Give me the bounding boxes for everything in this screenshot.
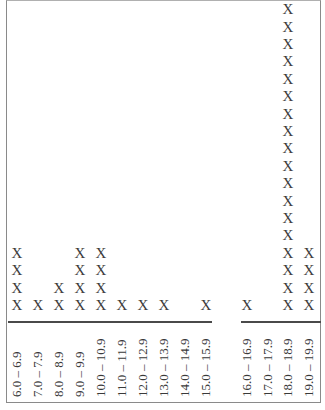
data-marker: X [278, 2, 298, 17]
data-marker: X [278, 246, 298, 261]
data-marker: X [49, 298, 69, 313]
data-marker: X [154, 298, 174, 313]
data-marker: X [278, 228, 298, 243]
x-tick-label: 14.0 – 14.9 [177, 339, 193, 398]
data-marker: X [91, 281, 111, 296]
data-marker: X [91, 298, 111, 313]
x-tick-label: 13.0 – 13.9 [156, 339, 172, 398]
data-marker: X [278, 176, 298, 191]
x-tick-label: 6.0 – 6.9 [9, 352, 25, 398]
data-marker: X [70, 298, 90, 313]
data-marker: X [7, 281, 27, 296]
x-tick-label: 12.0 – 12.9 [135, 339, 151, 398]
data-marker: X [278, 298, 298, 313]
x-tick-label: 17.0 – 17.9 [260, 339, 276, 398]
data-marker: X [278, 281, 298, 296]
data-marker: X [278, 54, 298, 69]
data-marker: X [112, 298, 132, 313]
data-marker: X [7, 263, 27, 278]
x-tick-label: 19.0 – 19.9 [301, 339, 317, 398]
data-marker: X [28, 298, 48, 313]
data-marker: X [278, 141, 298, 156]
x-tick-label: 8.0 – 8.9 [51, 352, 67, 398]
data-marker: X [49, 281, 69, 296]
data-marker: X [70, 263, 90, 278]
data-marker: X [70, 281, 90, 296]
data-marker: X [278, 159, 298, 174]
data-marker: X [299, 246, 319, 261]
x-axis-right-segment [241, 321, 321, 323]
data-marker: X [278, 194, 298, 209]
data-marker: X [70, 246, 90, 261]
data-marker: X [278, 89, 298, 104]
dot-plot: XXXX6.0 – 6.9X7.0 – 7.9XX8.0 – 8.9XXXX9.… [0, 0, 325, 410]
data-marker: X [278, 37, 298, 52]
x-tick-label: 7.0 – 7.9 [30, 352, 46, 398]
data-marker: X [299, 298, 319, 313]
data-marker: X [299, 263, 319, 278]
data-marker: X [133, 298, 153, 313]
data-marker: X [7, 246, 27, 261]
data-marker: X [278, 211, 298, 226]
x-tick-label: 9.0 – 9.9 [72, 352, 88, 398]
data-marker: X [91, 246, 111, 261]
data-marker: X [278, 20, 298, 35]
data-marker: X [196, 298, 216, 313]
data-marker: X [91, 263, 111, 278]
x-tick-label: 18.0 – 18.9 [280, 339, 296, 398]
data-marker: X [299, 281, 319, 296]
x-axis-left-segment [8, 321, 212, 323]
data-marker: X [7, 298, 27, 313]
data-marker: X [278, 72, 298, 87]
x-tick-label: 15.0 – 15.9 [198, 339, 214, 398]
data-marker: X [278, 124, 298, 139]
x-tick-label: 16.0 – 16.9 [239, 339, 255, 398]
x-tick-label: 10.0 – 10.9 [93, 339, 109, 398]
data-marker: X [237, 298, 257, 313]
data-marker: X [278, 263, 298, 278]
data-marker: X [278, 107, 298, 122]
x-tick-label: 11.0 – 11.9 [114, 339, 130, 397]
